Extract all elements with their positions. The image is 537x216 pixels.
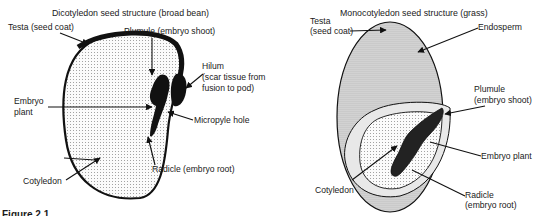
monocot-label-endosperm: Endosperm bbox=[478, 22, 522, 32]
dicot-diagram: Dicotyledon seed structure (broad bean) … bbox=[8, 8, 266, 198]
micropyle-pointer bbox=[168, 112, 193, 120]
monocot-label-plumule-1: Plumule bbox=[474, 84, 505, 94]
label-cotyledon: Cotyledon bbox=[23, 176, 62, 186]
monocot-label-testa-1: Testa bbox=[310, 16, 331, 26]
monocot-label-embryo: Embryo plant bbox=[481, 151, 532, 161]
label-hilum-2: (scar tissue from bbox=[202, 72, 266, 82]
label-plumule: Plumule (embryo shoot) bbox=[124, 26, 215, 36]
seed-structure-diagram: Dicotyledon seed structure (broad bean) … bbox=[0, 0, 537, 216]
monocot-label-radicle-1: Radicle bbox=[465, 190, 494, 200]
monocot-label-cotyledon: Cotyledon bbox=[315, 185, 354, 195]
label-hilum-3: fusion to pod) bbox=[202, 83, 254, 93]
label-hilum-1: Hilum bbox=[202, 61, 224, 71]
figure-caption: Figure 2.1 bbox=[2, 209, 50, 216]
label-micropyle: Micropyle hole bbox=[194, 115, 250, 125]
label-embryo-1: Embryo bbox=[14, 96, 44, 106]
dicot-title: Dicotyledon seed structure (broad bean) bbox=[52, 8, 209, 18]
endosperm-pointer bbox=[418, 28, 478, 52]
monocot-label-testa-2: (seed coat) bbox=[310, 26, 353, 36]
hilum-pointer bbox=[186, 74, 203, 88]
label-embryo-2: plant bbox=[14, 107, 33, 117]
monocot-label-radicle-2: (embryo root) bbox=[465, 200, 517, 210]
testa-pointer bbox=[60, 33, 88, 44]
monocot-label-plumule-2: (embryo shoot) bbox=[474, 95, 532, 105]
monocot-diagram: Monocotyledon seed structure (grass) Tes… bbox=[310, 8, 532, 212]
monocot-title: Monocotyledon seed structure (grass) bbox=[340, 8, 488, 18]
monocot-plumule-pointer bbox=[445, 106, 485, 114]
dicot-hilum bbox=[171, 74, 187, 107]
label-testa: Testa (seed coat) bbox=[8, 22, 74, 32]
label-radicle: Radicle (embryo root) bbox=[152, 164, 235, 174]
